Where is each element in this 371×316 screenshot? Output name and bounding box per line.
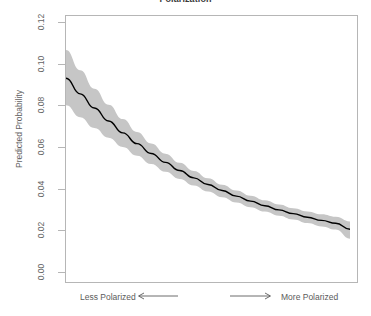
chart-figure: Polarization Predicted Probability 0.12 … [0, 0, 371, 316]
axis-annotation-svg [0, 0, 371, 316]
arrow-right-icon [230, 293, 271, 299]
arrow-left-icon [139, 293, 179, 299]
axis-note-more-polarized: More Polarized [281, 292, 338, 302]
axis-note-less-polarized: Less Polarized [80, 292, 136, 302]
